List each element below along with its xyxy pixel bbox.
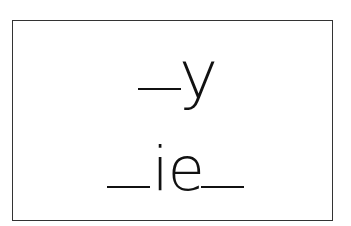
line2-letters: ie [152, 139, 204, 199]
line2-trailing-blank [201, 186, 244, 188]
line1-blank [138, 88, 181, 90]
line2-leading-blank [107, 186, 150, 188]
phonics-card: y ie [12, 20, 333, 221]
line1-letters: y [179, 43, 218, 109]
